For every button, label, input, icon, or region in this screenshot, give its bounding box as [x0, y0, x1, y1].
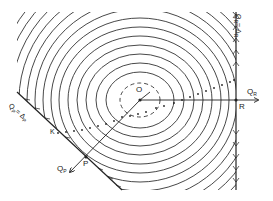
label-p: P [83, 160, 88, 168]
label-r: R [239, 103, 245, 111]
constraint-p-line [17, 92, 122, 190]
label-axis-qr: QR [247, 88, 257, 97]
point-r [234, 98, 237, 101]
label-constraint-r: QR= ΔR [233, 14, 242, 37]
label-k: K [50, 128, 55, 135]
label-axis-qp: QP [57, 165, 67, 174]
point-o [138, 98, 141, 101]
label-o: O [136, 86, 142, 94]
